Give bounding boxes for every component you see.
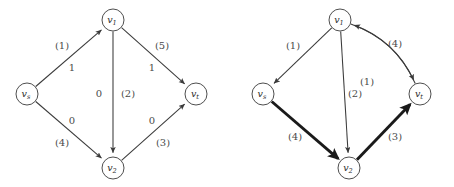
label-cap-vt-v1: (1)	[360, 76, 374, 87]
node-v1: v1	[102, 9, 124, 31]
node-v1: v1	[329, 9, 351, 31]
figure-root: v1vsvtv2 (1)1(5)10(2)0(4)0(3) v1vsvtv2 (…	[0, 0, 454, 187]
label-cap-v1-vs: (1)	[286, 40, 300, 51]
label-flow-vs-v1: 1	[69, 62, 75, 73]
label-cap-v1-v2: (2)	[121, 88, 135, 99]
edge-vs-v1	[36, 30, 102, 87]
original-network-panel: v1vsvtv2 (1)1(5)10(2)0(4)0(3)	[0, 0, 227, 187]
label-flow-v1-v2: 0	[96, 88, 102, 99]
node-vt: vt	[409, 83, 431, 105]
node-v2: v2	[338, 157, 360, 179]
edge-vs-v2	[36, 102, 102, 159]
label-cap-vs-v2: (4)	[55, 137, 69, 148]
edge-v1-vs	[274, 28, 332, 83]
label-flow-v1-vt: 1	[149, 62, 155, 73]
node-vs: vs	[252, 83, 274, 105]
label-flow-v2-vt: 0	[149, 115, 155, 126]
original-network-svg: v1vsvtv2 (1)1(5)10(2)0(4)0(3)	[0, 0, 227, 187]
label-cap-v2-vt: (3)	[388, 131, 402, 142]
label-flow-vs-v2: 0	[69, 115, 75, 126]
label-cap-vs-v2: (4)	[288, 131, 302, 142]
node-v2: v2	[102, 157, 124, 179]
label-cap-v1-vt: (4)	[388, 38, 402, 49]
node-layer: v1vsvtv2	[16, 9, 207, 179]
label-cap-vs-v1: (1)	[55, 40, 69, 51]
edge-v2-vt	[122, 104, 185, 160]
node-layer: v1vsvtv2	[252, 9, 431, 179]
edge-vs-v2	[272, 102, 338, 159]
residual-network-svg: v1vsvtv2 (1)(4)(1)(2)(4)(3)	[227, 0, 454, 187]
label-cap-v1-vt: (5)	[155, 40, 169, 51]
edge-v1-vt	[122, 28, 185, 84]
label-cap-v2-vt: (3)	[156, 137, 170, 148]
node-vs: vs	[16, 83, 38, 105]
edge-v1-vt	[351, 24, 414, 80]
label-cap-v1-v2: (2)	[348, 88, 362, 99]
node-vt: vt	[185, 83, 207, 105]
residual-network-panel: v1vsvtv2 (1)(4)(1)(2)(4)(3)	[227, 0, 454, 187]
